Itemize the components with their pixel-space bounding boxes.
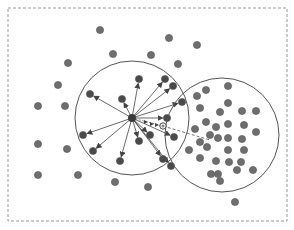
vector-arrow [132,89,169,118]
vector-arrow [132,83,138,118]
mean-point-dot [161,124,164,127]
data-point [54,81,61,88]
cluster-point [216,108,223,115]
shift-arrowhead-icon [155,123,159,127]
data-point [63,145,70,152]
cluster-point [225,158,232,165]
data-point [109,50,116,57]
data-point [34,140,41,147]
window-point [116,157,123,164]
window-center-point [128,114,136,122]
data-point [111,178,118,185]
cluster-point [191,125,198,132]
cluster-point [202,118,209,125]
cluster-point [249,166,256,173]
cluster-point [240,121,247,128]
cluster-point [207,170,214,177]
diagram-canvas [0,0,294,230]
data-points [34,26,259,205]
cluster-point [224,99,231,106]
data-point [74,171,81,178]
cluster-point [238,107,245,114]
window-point [159,155,166,162]
vector-arrow [121,118,132,157]
cluster-point [212,123,219,130]
window-point [170,133,177,140]
cluster-point [252,128,259,135]
window-point [135,137,142,144]
cluster-point [233,166,240,173]
window-point [89,147,96,154]
data-point [64,59,71,66]
window-point [167,162,174,169]
shift-arrowhead-icon [150,122,154,126]
data-point [61,102,68,109]
shift-arrowhead-icon [144,120,148,124]
cluster-point [252,107,259,114]
vector-arrow [132,82,162,118]
cluster-point [224,134,231,141]
cluster-point [240,146,247,153]
cluster-point [196,104,203,111]
mean-shift-diagram [0,0,294,230]
window-point [79,131,86,138]
cluster-point [224,82,231,89]
window-point [161,75,168,82]
cluster-point [196,154,203,161]
shift-vectors [87,82,177,162]
cluster-point [212,157,219,164]
data-point [34,102,41,109]
window-point [135,75,142,82]
cluster-point [238,135,245,142]
cluster-point [214,170,221,177]
cluster-point [203,143,210,150]
data-point [144,183,151,190]
window-point [118,95,125,102]
cluster-point [206,131,213,138]
vector-arrow [87,118,132,134]
data-point [174,60,181,67]
cluster-point [185,146,192,153]
cluster-point [216,177,223,184]
cluster-point [224,120,231,127]
window-point [178,98,185,105]
data-point [147,51,154,58]
data-point [231,198,238,205]
kernel-window-shifted [165,78,279,192]
cluster-point [214,134,221,141]
cluster-point [202,86,209,93]
vector-arrow [96,118,132,148]
data-point [34,171,41,178]
window-point [86,90,93,97]
cluster-point [193,92,200,99]
window-point [146,131,153,138]
cluster-point [237,158,244,165]
cluster-point [196,138,203,145]
data-point [96,26,103,33]
data-point [165,34,172,41]
cluster-point [224,146,231,153]
data-point [193,41,200,48]
window-point [169,82,176,89]
